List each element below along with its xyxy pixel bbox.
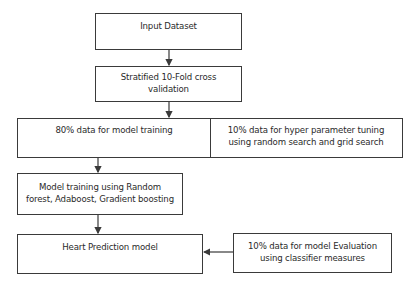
input-dataset-label: Input Dataset xyxy=(96,14,241,32)
model-label: Heart Prediction model xyxy=(18,235,202,253)
cv-label-line1: Stratified 10-Fold cross xyxy=(96,67,241,83)
training-label-line1: Model training using Random xyxy=(18,174,182,193)
split-tune-cell: 10% data for hyper parameter tuning usin… xyxy=(210,119,402,157)
split-tune-label-line2: using random search and grid search xyxy=(210,136,402,148)
model-evaluation-node: 10% data for model Evaluation using clas… xyxy=(233,233,392,273)
split-train-label: 80% data for model training xyxy=(55,125,172,135)
evaluation-label-line2: using classifier measures xyxy=(234,252,391,264)
split-train-cell: 80% data for model training xyxy=(18,119,210,157)
training-label-line2: forest, Adaboost, Gradient boosting xyxy=(18,193,182,205)
cv-label-line2: validation xyxy=(96,83,241,95)
evaluation-label-line1: 10% data for model Evaluation xyxy=(234,234,391,252)
heart-prediction-model-node: Heart Prediction model xyxy=(17,234,203,274)
cross-validation-node: Stratified 10-Fold cross validation xyxy=(95,66,242,102)
data-split-node: 80% data for model training 10% data for… xyxy=(17,118,403,158)
input-dataset-node: Input Dataset xyxy=(95,13,242,50)
split-tune-label-line1: 10% data for hyper parameter tuning xyxy=(210,124,402,136)
model-training-node: Model training using Random forest, Adab… xyxy=(17,173,183,215)
